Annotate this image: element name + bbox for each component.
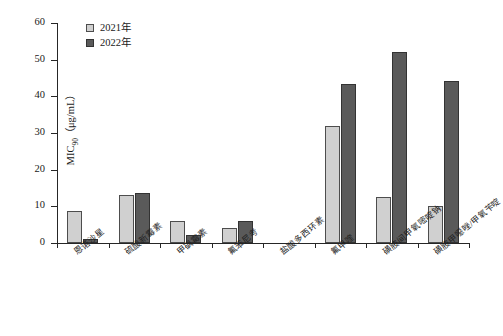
x-axis-tick xyxy=(109,243,110,248)
bar-2021 xyxy=(376,197,391,243)
legend: 2021年 2022年 xyxy=(86,20,131,50)
legend-label-2022: 2022年 xyxy=(100,35,131,50)
bar-2021 xyxy=(119,195,134,243)
y-axis-tick-label: 50 xyxy=(5,54,45,64)
y-axis-tick-label: 20 xyxy=(5,164,45,174)
bars-layer xyxy=(57,23,469,243)
bar-2021 xyxy=(325,126,340,243)
bar-2021 xyxy=(170,221,185,243)
y-axis-tick-label: 10 xyxy=(5,200,45,210)
x-axis-tick xyxy=(160,243,161,248)
x-axis-tick xyxy=(366,243,367,248)
x-axis-tick xyxy=(212,243,213,248)
legend-item-2022: 2022年 xyxy=(86,35,131,50)
legend-item-2021: 2021年 xyxy=(86,20,131,35)
y-axis-tick-label: 40 xyxy=(5,90,45,100)
x-axis-tick xyxy=(57,243,58,248)
legend-swatch-icon-2021 xyxy=(86,24,94,32)
legend-label-2021: 2021年 xyxy=(100,20,131,35)
x-axis-tick xyxy=(418,243,419,248)
bar-2021 xyxy=(67,211,82,243)
y-axis-tick-label: 0 xyxy=(5,237,45,247)
y-axis-tick-label: 30 xyxy=(5,127,45,137)
legend-swatch-icon-2022 xyxy=(86,39,94,47)
y-axis-tick-label: 60 xyxy=(5,17,45,27)
bar-2022 xyxy=(341,84,356,243)
x-axis-tick xyxy=(315,243,316,248)
bar-2022 xyxy=(444,81,459,243)
x-axis-tick xyxy=(263,243,264,248)
x-axis-tick xyxy=(469,243,470,248)
bar-2022 xyxy=(392,52,407,243)
